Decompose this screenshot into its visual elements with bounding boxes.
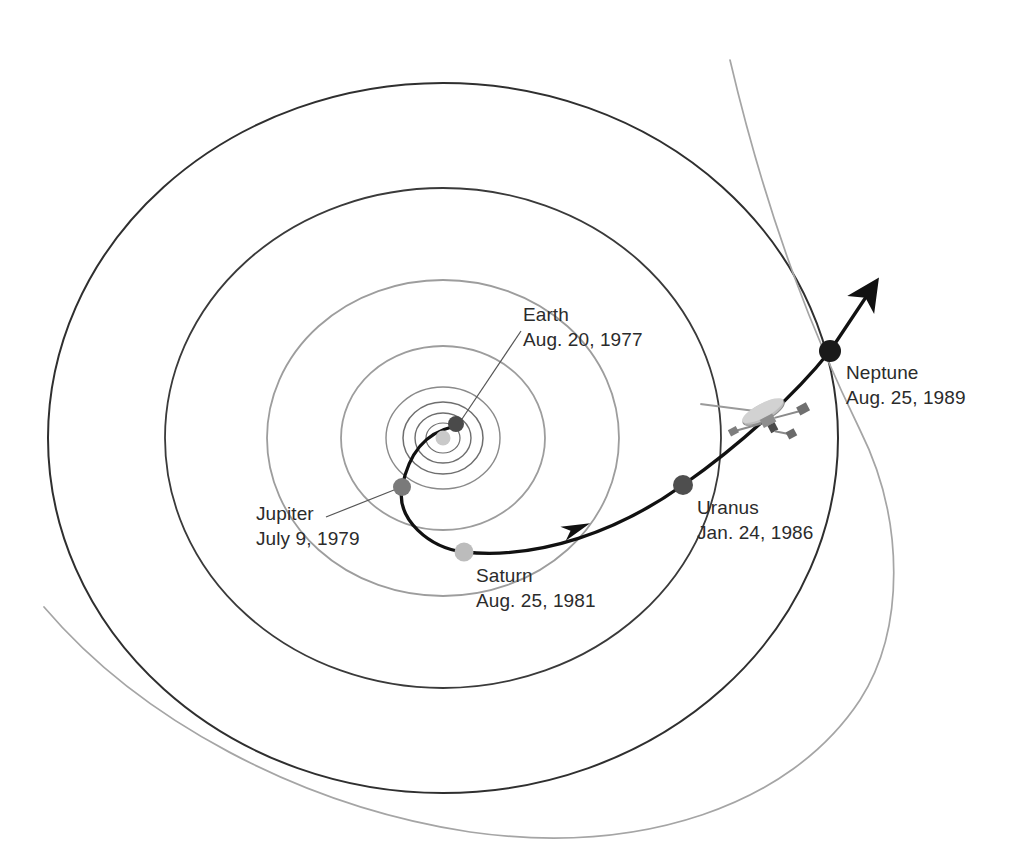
planet-label-earth-name: Earth bbox=[523, 302, 643, 327]
planet-label-jupiter-date: July 9, 1979 bbox=[256, 526, 360, 551]
planet-marker-earth bbox=[448, 416, 464, 432]
planet-marker-uranus bbox=[673, 475, 693, 495]
planet-marker-saturn bbox=[455, 543, 474, 562]
planet-label-saturn-name: Saturn bbox=[476, 563, 596, 588]
planet-label-saturn-date: Aug. 25, 1981 bbox=[476, 588, 596, 613]
orbit-diagram-svg bbox=[0, 0, 1014, 853]
planet-label-saturn: Saturn Aug. 25, 1981 bbox=[476, 563, 596, 613]
planet-label-jupiter: Jupiter July 9, 1979 bbox=[256, 501, 360, 551]
sun-marker bbox=[436, 431, 451, 446]
planet-label-neptune-name: Neptune bbox=[846, 360, 966, 385]
planet-label-uranus: Uranus Jan. 24, 1986 bbox=[697, 495, 813, 545]
planet-label-earth-date: Aug. 20, 1977 bbox=[523, 327, 643, 352]
planet-marker-jupiter bbox=[393, 478, 411, 496]
planet-label-neptune-date: Aug. 25, 1989 bbox=[846, 385, 966, 410]
planet-marker-neptune bbox=[819, 340, 841, 362]
trajectory-diagram-canvas: Earth Aug. 20, 1977 Jupiter July 9, 1979… bbox=[0, 0, 1014, 853]
planet-label-jupiter-name: Jupiter bbox=[256, 501, 360, 526]
planet-label-uranus-name: Uranus bbox=[697, 495, 813, 520]
leader-line-earth bbox=[462, 331, 521, 419]
planet-label-neptune: Neptune Aug. 25, 1989 bbox=[846, 360, 966, 410]
planet-label-earth: Earth Aug. 20, 1977 bbox=[523, 302, 643, 352]
planet-label-uranus-date: Jan. 24, 1986 bbox=[697, 520, 813, 545]
voyager-spacecraft-icon bbox=[700, 360, 817, 469]
